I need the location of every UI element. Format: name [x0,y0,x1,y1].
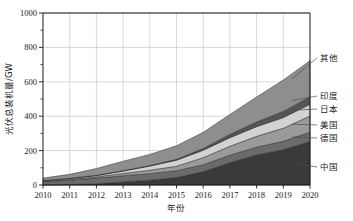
x-tick-label: 2015 [168,190,185,200]
x-axis-title: 年份 [167,203,185,213]
stacked-area-chart: 02004006008001000 2010201120122013201420… [0,0,353,221]
x-tick-label: 2012 [88,190,105,200]
y-tick-label: 600 [24,77,37,87]
x-tick-label: 2019 [275,190,292,200]
x-tick-label: 2016 [195,190,212,200]
x-tick-label: 2018 [248,190,265,200]
legend-label-德国: 德国 [320,133,338,143]
y-tick-label: 200 [24,146,37,156]
y-tick-label: 400 [24,111,37,121]
y-tick-label: 1000 [20,8,37,18]
x-tick-label: 2010 [35,190,52,200]
y-axis-title: 光伏总装机量/GW [4,62,14,134]
chart-figure: 02004006008001000 2010201120122013201420… [0,0,353,221]
x-tick-label: 2011 [61,190,78,200]
legend-label-日本: 日本 [320,104,338,114]
legend-label-其他: 其他 [320,53,338,63]
x-tick-label: 2013 [115,190,132,200]
y-tick-label: 800 [24,42,37,52]
x-tick-label: 2014 [141,190,159,200]
legend-label-美国: 美国 [320,120,338,130]
x-axis-tick-labels: 2010201120122013201420152016201720182019… [35,190,319,200]
y-tick-label: 0 [33,180,37,190]
x-tick-label: 2017 [221,190,238,200]
legend-label-印度: 印度 [320,91,338,101]
x-tick-label: 2020 [302,190,319,200]
legend-label-中国: 中国 [320,162,338,172]
